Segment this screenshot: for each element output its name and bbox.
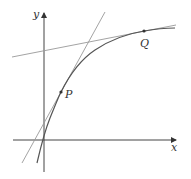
point-p-label: P bbox=[64, 88, 73, 101]
y-axis-label: y bbox=[32, 8, 40, 21]
x-axis-label: x bbox=[171, 141, 178, 154]
point-q-marker bbox=[142, 29, 145, 32]
diagram-canvas: y x P Q bbox=[0, 0, 191, 179]
point-q-label: Q bbox=[140, 37, 149, 50]
tangent-lines-diagram: y x P Q bbox=[0, 0, 191, 179]
point-p-marker bbox=[59, 90, 62, 93]
